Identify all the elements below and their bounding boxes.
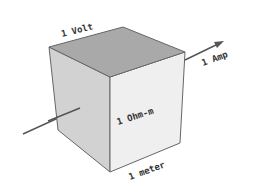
label-1-amp: 1 Amp bbox=[200, 49, 229, 68]
cube-diagram: 1 Volt 1 Amp 1 Ohm-m 1 meter bbox=[0, 0, 253, 189]
arrow-head-icon bbox=[214, 41, 224, 48]
